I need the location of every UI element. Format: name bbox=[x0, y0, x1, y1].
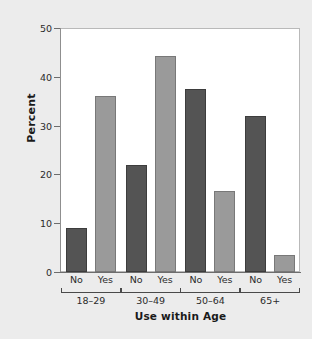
y-axis-tick bbox=[54, 126, 60, 127]
y-axis-tick-label: 20 bbox=[28, 169, 52, 180]
x-axis-title: Use within Age bbox=[61, 310, 300, 322]
x-tick-label: No bbox=[245, 274, 266, 285]
x-tick-label: Yes bbox=[214, 274, 235, 285]
group-label: 50–64 bbox=[180, 295, 240, 306]
bar-65+-yes bbox=[274, 255, 295, 272]
y-axis-tick-labels: 01020304050 bbox=[24, 0, 52, 339]
y-axis-tick-label: 30 bbox=[28, 120, 52, 131]
bar-3049-yes bbox=[155, 56, 176, 272]
x-axis-line bbox=[60, 272, 301, 273]
y-axis-tick bbox=[54, 28, 60, 29]
group-label: 65+ bbox=[240, 295, 300, 306]
y-axis-tick-label: 0 bbox=[28, 267, 52, 278]
bracket-line bbox=[121, 288, 181, 293]
y-axis-tick bbox=[54, 272, 60, 273]
x-tick-label: Yes bbox=[95, 274, 116, 285]
bar-1829-yes bbox=[95, 96, 116, 272]
x-axis-tick-labels: NoYesNoYesNoYesNoYes bbox=[61, 274, 300, 288]
x-tick-label: Yes bbox=[274, 274, 295, 285]
bar-5064-yes bbox=[214, 191, 235, 272]
bar-5064-no bbox=[185, 89, 206, 272]
bar-series bbox=[61, 28, 300, 272]
y-axis-tick-label: 10 bbox=[28, 218, 52, 229]
bar-3049-no bbox=[126, 165, 147, 272]
bracket-line bbox=[180, 288, 240, 293]
bracket-line bbox=[61, 288, 121, 293]
x-tick-label: No bbox=[185, 274, 206, 285]
group-label: 30–49 bbox=[121, 295, 181, 306]
x-tick-label: Yes bbox=[155, 274, 176, 285]
x-tick-label: No bbox=[126, 274, 147, 285]
y-axis-tick-label: 40 bbox=[28, 71, 52, 82]
y-axis-tick bbox=[54, 223, 60, 224]
x-tick-label: No bbox=[66, 274, 87, 285]
y-axis-tick bbox=[54, 174, 60, 175]
bar-65+-no bbox=[245, 116, 266, 272]
bracket-line bbox=[240, 288, 300, 293]
bar-1829-no bbox=[66, 228, 87, 272]
y-axis-tick-label: 50 bbox=[28, 23, 52, 34]
bar-chart-figure: Percent 01020304050 NoYesNoYesNoYesNoYes… bbox=[0, 0, 312, 339]
y-axis-tick bbox=[54, 77, 60, 78]
group-label: 18–29 bbox=[61, 295, 121, 306]
